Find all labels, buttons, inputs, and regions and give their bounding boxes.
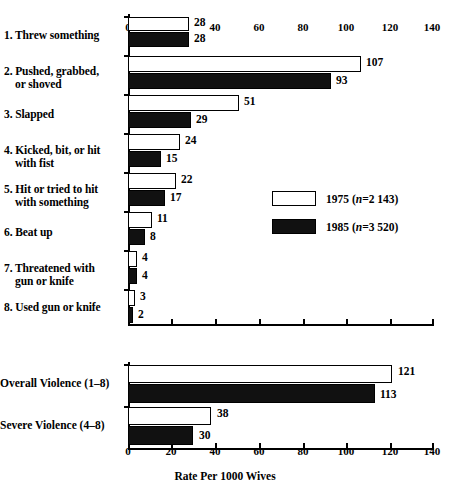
- bar-1985-cat6: [128, 229, 145, 245]
- bar-value-1975-cat7: 4: [142, 251, 148, 263]
- x-tick-120: [390, 319, 392, 324]
- category-label-1-line1: 1. Threw something: [4, 29, 99, 41]
- legend-label-1985: 1985 (n=3 520): [326, 221, 398, 233]
- bottom-plot-area: 0 20 40 60 80 100 120 140 121 113 38 30: [128, 362, 434, 450]
- bar-1985-severe: [128, 426, 193, 445]
- legend-1985-tail: =3 520): [362, 221, 398, 233]
- bar-1975-cat5: [128, 173, 176, 189]
- chart-figure: 1. Threw something 2. Pushed, grabbed, o…: [0, 0, 450, 490]
- x-tick-label-bot-0: 0: [125, 445, 131, 457]
- category-label-4-line1: 4. Kicked, bit, or hit: [4, 144, 100, 156]
- category-label-7-line1: 7. Threatened with: [4, 262, 95, 274]
- bar-value-1975-cat6: 11: [157, 212, 168, 224]
- bar-1975-overall: [128, 365, 392, 383]
- bar-value-1975-cat4: 24: [185, 134, 197, 146]
- bar-1985-cat4: [128, 151, 161, 167]
- bar-1985-overall: [128, 384, 375, 403]
- x-tick-20: [171, 319, 173, 324]
- bar-value-1985-cat8: 2: [138, 308, 144, 320]
- bar-value-1975-overall: 121: [398, 365, 415, 377]
- bar-value-1985-cat1: 28: [194, 32, 206, 44]
- bar-value-1985-overall: 113: [380, 388, 397, 400]
- x-tick-label-140: 140: [424, 21, 441, 33]
- x-axis-title: Rate Per 1000 Wives: [0, 470, 450, 482]
- bar-1975-cat7: [128, 251, 137, 267]
- bar-value-1975-cat5: 22: [181, 173, 193, 185]
- bar-1985-cat5: [128, 190, 165, 206]
- x-tick-100: [346, 319, 348, 324]
- bar-value-1975-cat1: 28: [194, 16, 206, 28]
- bar-value-1985-cat7: 4: [142, 269, 148, 281]
- top-plot-area: 0 20 40 60 80 100 120 140 28 28 107 93 5…: [128, 14, 434, 326]
- legend-1985-year: 1985 (: [326, 221, 356, 233]
- category-label-7-line2: gun or knife: [4, 275, 122, 288]
- bar-1975-cat6: [128, 212, 152, 228]
- bar-value-1975-cat8: 3: [140, 290, 146, 302]
- legend-row-1975: 1975 (n=2 143): [272, 190, 398, 207]
- bar-1985-cat8: [128, 307, 133, 323]
- x-tick-label-bot-140: 140: [424, 445, 441, 457]
- bar-1975-cat3: [128, 95, 239, 111]
- x-tick-140: [432, 319, 434, 324]
- category-label-5-line1: 5. Hit or tried to hit: [4, 183, 98, 195]
- bar-1975-cat1: [128, 17, 189, 31]
- category-label-2-line2: or shoved: [4, 78, 122, 91]
- category-label-4-line2: with fist: [4, 157, 122, 170]
- legend-row-1985: 1985 (n=3 520): [272, 218, 398, 235]
- bar-value-1975-severe: 38: [217, 407, 229, 419]
- category-label-1: 1. Threw something: [4, 16, 122, 42]
- x-tick-label-120: 120: [382, 21, 399, 33]
- x-tick-40: [215, 319, 217, 324]
- x-tick-label-40: 40: [210, 21, 221, 33]
- bar-value-1975-cat2: 107: [366, 56, 383, 68]
- bar-value-1985-cat4: 15: [166, 152, 178, 164]
- category-label-6-line1: 6. Beat up: [4, 226, 53, 238]
- bar-1975-severe: [128, 407, 211, 425]
- category-label-2-line1: 2. Pushed, grabbed,: [4, 65, 99, 77]
- x-tick-label-bot-20: 20: [166, 445, 177, 457]
- legend-swatch-1975: [272, 191, 316, 206]
- x-tick-80: [303, 319, 305, 324]
- category-label-3-line1: 3. Slapped: [4, 108, 54, 120]
- x-tick-label-80: 80: [298, 21, 309, 33]
- legend-1975-tail: =2 143): [362, 193, 398, 205]
- legend-label-1975: 1975 (n=2 143): [326, 193, 398, 205]
- bar-1985-cat2: [128, 73, 331, 89]
- x-tick-60: [259, 319, 261, 324]
- bar-1985-cat7: [128, 268, 137, 284]
- bar-value-1975-cat3: 51: [244, 95, 256, 107]
- bar-value-1985-cat2: 93: [336, 74, 348, 86]
- category-label-8: 8. Used gun or knife: [4, 288, 122, 314]
- bar-1985-cat1: [128, 32, 189, 47]
- legend-1975-year: 1975 (: [326, 193, 356, 205]
- summary-label-severe: Severe Violence (4–8): [0, 419, 120, 431]
- legend-swatch-1985: [272, 219, 316, 234]
- x-tick-label-bot-80: 80: [298, 445, 309, 457]
- x-axis-top: [128, 324, 434, 326]
- bar-1975-cat4: [128, 134, 180, 150]
- bar-value-1985-cat3: 29: [196, 113, 208, 125]
- category-label-8-line1: 8. Used gun or knife: [4, 301, 101, 313]
- category-label-3: 3. Slapped: [4, 95, 122, 121]
- x-tick-label-100: 100: [338, 21, 355, 33]
- x-tick-label-bot-100: 100: [338, 445, 355, 457]
- bar-value-1985-severe: 30: [199, 429, 211, 441]
- summary-label-overall: Overall Violence (1–8): [0, 377, 120, 389]
- x-tick-label-bot-40: 40: [210, 445, 221, 457]
- x-tick-label-bot-60: 60: [254, 445, 265, 457]
- bar-value-1985-cat6: 8: [150, 230, 156, 242]
- bar-1985-cat3: [128, 112, 191, 128]
- bar-value-1985-cat5: 17: [170, 191, 182, 203]
- category-label-5-line2: with something: [4, 196, 122, 209]
- legend: 1975 (n=2 143) 1985 (n=3 520): [272, 190, 398, 246]
- bar-1975-cat8: [128, 290, 135, 306]
- x-tick-label-60: 60: [254, 21, 265, 33]
- category-label-6: 6. Beat up: [4, 213, 122, 239]
- bar-1975-cat2: [128, 56, 361, 72]
- x-tick-label-bot-120: 120: [382, 445, 399, 457]
